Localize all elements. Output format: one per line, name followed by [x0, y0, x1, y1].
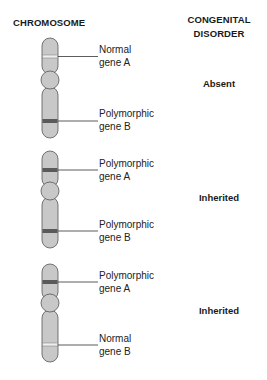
chromosome-2 [41, 151, 98, 248]
gene-label-line1: Polymorphic [99, 157, 154, 170]
gene-label-row2-b: Polymorphic gene B [99, 218, 154, 244]
gene-label-line2: gene A [99, 170, 154, 183]
polymorphic-band-gene-b [42, 229, 57, 233]
normal-band-gene-a [42, 55, 57, 58]
gene-label-line2: gene B [99, 345, 131, 358]
gene-label-line1: Polymorphic [99, 218, 154, 231]
gene-label-row3-a: Polymorphic gene A [99, 269, 154, 295]
disorder-status-row3: Inherited [180, 305, 258, 316]
normal-band-gene-b [42, 343, 57, 346]
gene-label-row1-b: Polymorphic gene B [99, 107, 154, 133]
gene-label-line2: gene A [99, 56, 131, 69]
gene-label-line2: gene B [99, 231, 154, 244]
polymorphic-band-gene-b [42, 119, 57, 123]
gene-label-line2: gene B [99, 120, 154, 133]
polymorphic-band-gene-a [42, 168, 57, 172]
gene-label-row2-a: Polymorphic gene A [99, 157, 154, 183]
polymorphic-band-gene-a [42, 280, 57, 284]
gene-label-row1-a: Normal gene A [99, 43, 131, 69]
gene-label-row3-b: Normal gene B [99, 332, 131, 358]
gene-label-line2: gene A [99, 282, 154, 295]
chromosome-diagram [0, 0, 267, 380]
chromosome-3 [41, 264, 98, 362]
disorder-status-row1: Absent [180, 78, 258, 89]
gene-label-line1: Normal [99, 43, 131, 56]
disorder-status-row2: Inherited [180, 192, 258, 203]
gene-label-line1: Polymorphic [99, 107, 154, 120]
chromosome-1 [41, 38, 98, 138]
gene-label-line1: Normal [99, 332, 131, 345]
gene-label-line1: Polymorphic [99, 269, 154, 282]
